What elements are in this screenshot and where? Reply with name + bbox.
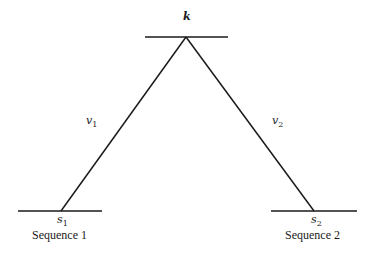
left-edge-label: v1	[86, 114, 97, 129]
left-node-caption: Sequence 1	[32, 228, 87, 243]
left-node-label: s1	[57, 213, 68, 228]
top-node-label: k	[183, 10, 191, 23]
tree-diagram: k v1 v2 s1 Sequence 1 s2 Sequence 2	[0, 0, 367, 259]
right-edge-line	[186, 37, 314, 211]
right-node-label: s2	[311, 213, 322, 228]
right-node-caption: Sequence 2	[285, 228, 340, 243]
right-node-subscript: 2	[317, 219, 322, 228]
right-edge-subscript: 2	[278, 120, 283, 129]
left-edge-subscript: 1	[92, 120, 97, 129]
left-edge-line	[61, 37, 186, 211]
left-node-subscript: 1	[63, 219, 68, 228]
right-edge-label: v2	[272, 114, 283, 129]
